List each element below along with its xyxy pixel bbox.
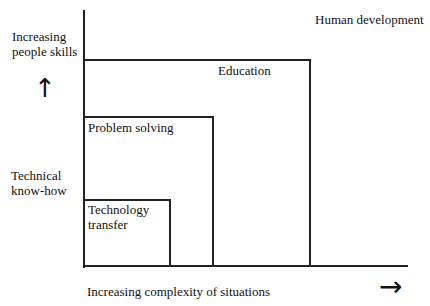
problem-solving-label: Problem solving (88, 120, 174, 136)
education-label: Education (218, 63, 271, 79)
right-arrow-icon: → (379, 272, 402, 302)
up-arrow-icon: ↑ (34, 74, 56, 102)
y-axis-top-label-line1: Increasing (12, 29, 66, 44)
y-axis-top-label-line2: people skills (12, 44, 77, 59)
x-axis-label: Increasing complexity of situations (87, 284, 270, 299)
y-axis-bottom-label-line1: Technical (11, 168, 61, 183)
diagram-title: Human development (315, 12, 424, 27)
technology-transfer-label-line1: Technology (88, 202, 149, 218)
technology-transfer-label-line2: transfer (88, 217, 128, 233)
y-axis-bottom-label-line2: know-how (11, 183, 67, 198)
technology-transfer-box: Technology transfer (84, 199, 171, 266)
